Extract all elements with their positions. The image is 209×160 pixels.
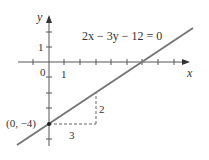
point-label: (0, −4): [6, 117, 36, 130]
y-tick-label-1: 1: [38, 41, 44, 53]
equation-label: 2x − 3y − 12 = 0: [82, 29, 162, 43]
line-graph: y x 1 0 1 2x − 3y − 12 = 0 (0, −4) 3 2: [0, 0, 209, 160]
y-axis-label: y: [36, 10, 43, 24]
origin-label: 0: [40, 66, 46, 78]
y-axis-arrow-icon: [46, 15, 52, 23]
x-axis-arrow-icon: [182, 59, 190, 65]
rise-label: 2: [99, 103, 105, 115]
run-label: 3: [69, 129, 75, 141]
y-intercept-point: [47, 122, 51, 126]
x-tick-label-1: 1: [61, 68, 67, 80]
x-axis-label: x: [186, 66, 193, 80]
